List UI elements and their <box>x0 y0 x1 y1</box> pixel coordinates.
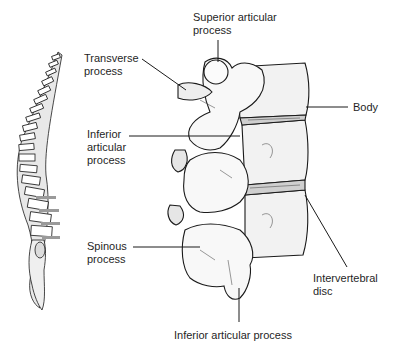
label-superior-articular-process: Superior articular process <box>193 11 277 37</box>
label-intervertebral-disc: Intervertebral disc <box>313 272 378 298</box>
lumbar-vertebrae-illustration <box>168 58 309 299</box>
diagram-canvas <box>0 0 399 352</box>
leader-transverse-process <box>142 59 186 90</box>
label-transverse-process: Transverse process <box>84 52 139 78</box>
label-inferior-articular-process-left: Inferior articular process <box>87 128 126 167</box>
label-inferior-articular-process-bottom: Inferior articular process <box>174 329 292 342</box>
leader-intervertebral-disc <box>305 195 347 267</box>
label-spinous-process: Spinous process <box>87 240 127 266</box>
label-body: Body <box>353 101 378 114</box>
spinal-column-illustration <box>17 52 62 310</box>
